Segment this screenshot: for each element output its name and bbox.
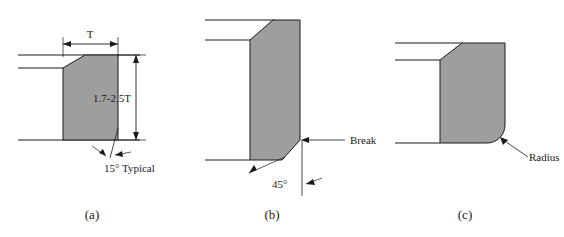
panel-b-angle-arrow-left (249, 165, 257, 173)
panel-b-break-label: Break (350, 134, 377, 146)
panel-a-width-label: T (87, 28, 94, 40)
panel-c-radius-arrow (500, 137, 508, 145)
panel-a-width-arrow-left (63, 41, 71, 47)
panel-c: Radius (c) (395, 43, 560, 222)
panel-a-angle-label: 15° Typical (104, 162, 155, 174)
figure-container: T 1.7-2.5T 15° Typical (a) (0, 0, 564, 237)
panel-a-height-arrow-top (133, 55, 139, 63)
panel-a-width-arrow-right (110, 41, 118, 47)
panel-b-caption: (b) (264, 207, 279, 222)
panel-a: T 1.7-2.5T 15° Typical (a) (18, 28, 155, 222)
panel-c-radius-label: Radius (529, 151, 560, 163)
panel-b-part-body (250, 20, 300, 160)
technical-diagram: T 1.7-2.5T 15° Typical (a) (0, 0, 564, 237)
panel-b: Break 45° (b) (205, 20, 377, 222)
panel-a-angle-arrow-left (99, 149, 106, 156)
panel-b-angle-label: 45° (272, 178, 287, 190)
panel-a-caption: (a) (85, 207, 99, 222)
panel-c-caption: (c) (458, 207, 472, 222)
panel-c-part-body (440, 43, 505, 143)
panel-b-angle-arrow-right (306, 179, 315, 185)
panel-a-height-label: 1.7-2.5T (93, 92, 131, 104)
panel-a-height-arrow-bottom (133, 132, 139, 140)
panel-a-angle-arrow-right (115, 151, 123, 157)
